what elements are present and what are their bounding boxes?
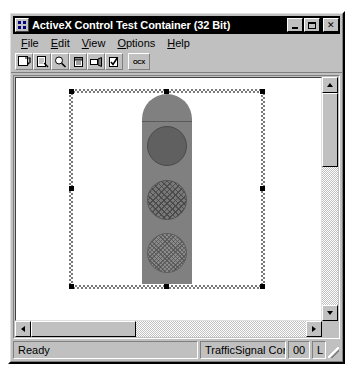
menu-bar: File Edit View Options Help bbox=[11, 34, 342, 51]
resize-handle-se[interactable] bbox=[260, 284, 265, 289]
green-lamp[interactable] bbox=[147, 233, 187, 273]
arrow-down-icon bbox=[327, 311, 333, 315]
resize-grip[interactable] bbox=[326, 341, 340, 359]
resize-handle-ne[interactable] bbox=[260, 89, 265, 94]
horizontal-scrollbar[interactable] bbox=[15, 321, 322, 337]
yellow-lamp[interactable] bbox=[147, 180, 187, 220]
selected-control-frame[interactable] bbox=[69, 89, 265, 289]
horizontal-scroll-thumb[interactable] bbox=[31, 321, 136, 337]
scroll-right-button[interactable] bbox=[306, 321, 322, 337]
status-bar: Ready TrafficSignal Con 00 L bbox=[13, 341, 340, 359]
resize-handle-s[interactable] bbox=[164, 284, 169, 289]
minimize-button[interactable] bbox=[287, 18, 303, 32]
menu-item-view[interactable]: View bbox=[76, 36, 112, 50]
menu-item-edit[interactable]: Edit bbox=[45, 36, 76, 50]
status-control-name: TrafficSignal Con bbox=[200, 341, 286, 359]
menu-item-file[interactable]: File bbox=[15, 36, 45, 50]
properties-button[interactable] bbox=[51, 53, 69, 70]
signal-visor-divider bbox=[142, 121, 192, 122]
scrollbar-corner bbox=[322, 321, 338, 337]
resize-handle-e[interactable] bbox=[260, 186, 265, 191]
maximize-icon bbox=[305, 19, 319, 31]
title-bar[interactable]: ActiveX Control Test Container (32 Bit) … bbox=[13, 16, 340, 34]
menu-item-options[interactable]: Options bbox=[111, 36, 161, 50]
magnifier-icon bbox=[54, 56, 67, 68]
scroll-up-button[interactable] bbox=[322, 77, 338, 93]
window-inner-frame: ActiveX Control Test Container (32 Bit) … bbox=[10, 13, 343, 362]
arrow-up-icon bbox=[327, 83, 333, 87]
resize-handle-n[interactable] bbox=[164, 89, 169, 94]
scroll-left-button[interactable] bbox=[15, 321, 31, 337]
resize-handle-sw[interactable] bbox=[69, 284, 74, 289]
resize-handle-nw[interactable] bbox=[69, 89, 74, 94]
invoke-methods-button[interactable] bbox=[69, 53, 87, 70]
client-area bbox=[13, 75, 340, 339]
maximize-button[interactable] bbox=[304, 18, 320, 32]
design-canvas[interactable] bbox=[15, 77, 322, 321]
toolbar: OCX bbox=[11, 51, 342, 73]
new-document-icon bbox=[36, 56, 49, 68]
insert-new-control-button[interactable] bbox=[33, 53, 51, 70]
vertical-scrollbar[interactable] bbox=[322, 77, 338, 321]
traffic-signal-control[interactable] bbox=[142, 94, 192, 284]
status-count: 00 bbox=[288, 341, 310, 359]
insert-control-icon bbox=[18, 56, 31, 68]
new-control-button[interactable] bbox=[15, 53, 33, 70]
checkmark-box-icon bbox=[108, 56, 121, 68]
menu-item-help[interactable]: Help bbox=[161, 36, 196, 50]
container-icon bbox=[72, 56, 85, 68]
close-button[interactable]: ✕ bbox=[323, 18, 339, 32]
arrow-right-icon bbox=[312, 326, 316, 332]
minimize-icon bbox=[288, 19, 302, 31]
vertical-scroll-thumb[interactable] bbox=[322, 93, 338, 167]
close-icon: ✕ bbox=[324, 19, 338, 31]
scroll-down-button[interactable] bbox=[322, 305, 338, 321]
activex-container-icon bbox=[15, 18, 29, 32]
resize-handle-w[interactable] bbox=[69, 186, 74, 191]
event-log-button[interactable] bbox=[87, 53, 105, 70]
log-icon bbox=[90, 56, 103, 68]
status-extra: L bbox=[312, 341, 326, 359]
red-lamp[interactable] bbox=[147, 126, 187, 166]
control-info-button[interactable] bbox=[105, 53, 123, 70]
window-title: ActiveX Control Test Container (32 Bit) bbox=[32, 19, 286, 31]
status-message: Ready bbox=[13, 341, 198, 359]
arrow-left-icon bbox=[21, 326, 25, 332]
ocx-button[interactable]: OCX bbox=[128, 53, 150, 70]
application-window: ActiveX Control Test Container (32 Bit) … bbox=[8, 11, 345, 364]
